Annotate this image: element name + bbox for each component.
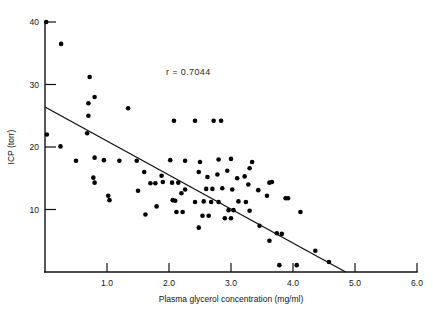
data-point [107,198,112,203]
data-point [58,144,63,149]
data-point [126,106,131,111]
data-point [134,158,139,163]
y-tick-label: 10 [30,205,40,215]
data-point [242,174,247,179]
data-point [168,158,173,163]
data-point [193,118,198,123]
data-point [86,113,91,118]
data-point [225,168,230,173]
y-tick-label: 30 [30,80,40,90]
data-point [223,216,228,221]
data-point [235,176,240,181]
data-point [256,188,261,193]
data-points-layer [44,20,331,268]
x-axis-ticks: 1.02.03.04.05.06.0 [101,263,423,288]
y-tick-label: 20 [30,142,40,152]
data-point [215,172,220,177]
data-point [44,20,49,25]
x-tick-label: 1.0 [101,278,113,288]
data-point [142,170,147,175]
data-point [206,213,211,218]
data-point [173,198,178,203]
data-point [136,188,141,193]
data-point [193,200,198,205]
data-point [267,238,272,243]
data-point [179,191,184,196]
data-point [170,180,175,185]
data-point [229,157,234,162]
plot-canvas: 10203040 1.02.03.04.05.06.0 r = 0.7044 P… [0,0,433,314]
data-point [229,216,234,221]
x-axis-title: Plasma glycerol concentration (mg/ml) [159,294,304,304]
data-point [283,196,288,201]
data-point [247,208,252,213]
data-point [230,187,235,192]
data-point [198,160,203,165]
data-point [92,155,97,160]
data-point [216,157,221,162]
data-point [265,193,270,198]
page-caption-fragment [0,304,433,314]
data-point [102,158,107,163]
data-point [313,248,318,253]
data-point [117,158,122,163]
x-tick-label: 4.0 [287,278,299,288]
y-tick-label: 40 [30,17,40,27]
data-point [250,160,255,165]
data-point [236,199,241,204]
correlation-annotation: r = 0.7044 [166,67,211,77]
data-point [219,118,224,123]
data-point [244,200,249,205]
data-point [205,175,210,180]
data-point [196,170,201,175]
data-point [210,187,215,192]
data-point [209,200,214,205]
data-point [153,181,158,186]
data-point [59,42,64,47]
data-point [92,95,97,100]
data-point [148,181,153,186]
data-point [277,263,282,268]
data-point [159,173,164,178]
data-point [86,101,91,106]
regression-line [45,107,346,272]
data-point [174,210,179,215]
data-point [180,210,185,215]
scatter-plot-figure: 10203040 1.02.03.04.05.06.0 r = 0.7044 P… [0,0,433,314]
data-point [87,75,92,80]
data-point [298,210,303,215]
regression-line-layer [45,107,346,272]
data-point [172,118,177,123]
data-point [74,158,79,163]
data-point [204,187,209,192]
axes-group [45,22,417,272]
data-point [201,199,206,204]
data-point [196,225,201,230]
data-point [270,180,275,185]
data-point [106,193,111,198]
data-point [220,186,225,191]
data-point [161,180,166,185]
data-point [183,187,188,192]
data-point [183,158,188,163]
y-axis-ticks: 10203040 [30,17,56,215]
x-tick-label: 5.0 [349,278,361,288]
data-point [91,175,96,180]
data-point [211,118,216,123]
data-point [45,132,50,137]
data-point [247,166,252,171]
data-point [154,204,159,209]
y-axis-title: ICP (torr) [6,129,16,164]
x-tick-label: 2.0 [163,278,175,288]
data-point [200,213,205,218]
data-point [92,180,97,185]
data-point [143,212,148,217]
data-point [294,263,299,268]
x-tick-label: 6.0 [411,278,423,288]
data-point [246,182,251,187]
x-tick-label: 3.0 [225,278,237,288]
